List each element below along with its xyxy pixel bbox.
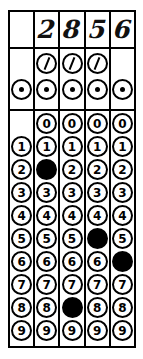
symbol-column-4 <box>86 49 111 109</box>
digit-bubble-5-2[interactable]: 2 <box>112 159 133 180</box>
digit-bubble-5-4[interactable]: 4 <box>112 205 133 226</box>
digit-bubble-3-9[interactable]: 9 <box>62 320 83 341</box>
fraction-bar-bubble-3[interactable] <box>62 53 83 74</box>
digit-bubble-4-6[interactable]: 6 <box>87 251 108 272</box>
digit-bubble-5-9[interactable]: 9 <box>112 320 133 341</box>
symbol-column-1 <box>10 49 35 109</box>
answer-digit-2: 2 <box>37 17 56 42</box>
answer-digit-3: 8 <box>62 17 81 42</box>
digit-bubble-4-8[interactable]: 8 <box>87 297 108 318</box>
digit-bubble-3-2[interactable]: 2 <box>62 159 83 180</box>
decimal-point-bubble-3[interactable] <box>62 79 83 100</box>
digit-bubble-3-5[interactable]: 5 <box>62 228 83 249</box>
fraction-bar-placeholder-1 <box>11 53 32 74</box>
answer-cell-5[interactable]: 6 <box>111 12 134 47</box>
symbol-column-5 <box>111 49 134 109</box>
digit-bubble-2-8[interactable]: 8 <box>36 297 57 318</box>
digit-bubble-2-7[interactable]: 7 <box>36 274 57 295</box>
digit-bubble-4-5[interactable]: 5 <box>87 228 108 249</box>
digit-bubble-1-7[interactable]: 7 <box>11 274 32 295</box>
digit-bubble-2-5[interactable]: 5 <box>36 228 57 249</box>
digit-column-1: 123456789 <box>10 111 35 346</box>
digit-bubble-1-1[interactable]: 1 <box>11 136 32 157</box>
digit-bubble-3-1[interactable]: 1 <box>62 136 83 157</box>
digit-bubble-1-3[interactable]: 3 <box>11 182 32 203</box>
digit-bubble-5-1[interactable]: 1 <box>112 136 133 157</box>
decimal-point-bubble-2[interactable] <box>36 79 57 100</box>
answer-cell-1[interactable] <box>10 12 35 47</box>
digit-bubble-3-0[interactable]: 0 <box>62 113 83 134</box>
digit-bubble-3-4[interactable]: 4 <box>62 205 83 226</box>
symbol-bubble-section <box>10 49 134 111</box>
digit-bubble-5-6[interactable]: 6 <box>112 251 133 272</box>
digit-bubble-5-7[interactable]: 7 <box>112 274 133 295</box>
digit-bubble-section: 1234567890123456789012345678901234567890… <box>10 111 134 346</box>
digit-bubble-4-0[interactable]: 0 <box>87 113 108 134</box>
digit-bubble-placeholder-zero-1 <box>11 113 32 134</box>
digit-bubble-4-9[interactable]: 9 <box>87 320 108 341</box>
handwritten-answer-row: 2 8 5 6 <box>10 12 134 49</box>
digit-bubble-2-4[interactable]: 4 <box>36 205 57 226</box>
digit-bubble-4-3[interactable]: 3 <box>87 182 108 203</box>
digit-column-4: 0123456789 <box>86 111 111 346</box>
symbol-column-3 <box>60 49 85 109</box>
answer-digit-4: 5 <box>88 17 107 42</box>
digit-bubble-1-4[interactable]: 4 <box>11 205 32 226</box>
digit-bubble-5-3[interactable]: 3 <box>112 182 133 203</box>
digit-bubble-2-0[interactable]: 0 <box>36 113 57 134</box>
digit-bubble-1-2[interactable]: 2 <box>11 159 32 180</box>
digit-column-2: 0123456789 <box>35 111 60 346</box>
digit-bubble-5-0[interactable]: 0 <box>112 113 133 134</box>
fraction-bar-bubble-2[interactable] <box>36 53 57 74</box>
digit-bubble-2-9[interactable]: 9 <box>36 320 57 341</box>
digit-bubble-1-5[interactable]: 5 <box>11 228 32 249</box>
digit-bubble-1-8[interactable]: 8 <box>11 297 32 318</box>
digit-bubble-4-2[interactable]: 2 <box>87 159 108 180</box>
answer-cell-3[interactable]: 8 <box>60 12 85 47</box>
digit-bubble-2-6[interactable]: 6 <box>36 251 57 272</box>
digit-bubble-2-3[interactable]: 3 <box>36 182 57 203</box>
fraction-bar-bubble-4[interactable] <box>87 53 108 74</box>
answer-cell-4[interactable]: 5 <box>86 12 111 47</box>
fraction-bar-placeholder-5 <box>112 53 133 74</box>
decimal-point-bubble-4[interactable] <box>87 79 108 100</box>
digit-column-3: 0123456789 <box>60 111 85 346</box>
digit-bubble-2-2[interactable]: 2 <box>36 159 57 180</box>
digit-bubble-1-6[interactable]: 6 <box>11 251 32 272</box>
digit-bubble-3-7[interactable]: 7 <box>62 274 83 295</box>
digit-bubble-3-3[interactable]: 3 <box>62 182 83 203</box>
decimal-point-bubble-5[interactable] <box>112 79 133 100</box>
digit-bubble-5-5[interactable]: 5 <box>112 228 133 249</box>
answer-cell-2[interactable]: 2 <box>35 12 60 47</box>
digit-bubble-5-8[interactable]: 8 <box>112 297 133 318</box>
digit-column-5: 0123456789 <box>111 111 134 346</box>
answer-digit-5: 6 <box>113 17 132 42</box>
digit-bubble-4-4[interactable]: 4 <box>87 205 108 226</box>
digit-bubble-2-1[interactable]: 1 <box>36 136 57 157</box>
digit-bubble-4-7[interactable]: 7 <box>87 274 108 295</box>
digit-bubble-3-6[interactable]: 6 <box>62 251 83 272</box>
digit-bubble-4-1[interactable]: 1 <box>87 136 108 157</box>
grid-in-answer-grid: 2 8 5 6 <box>8 10 136 348</box>
digit-bubble-3-8[interactable]: 8 <box>62 297 83 318</box>
symbol-column-2 <box>35 49 60 109</box>
decimal-point-bubble-1[interactable] <box>11 79 32 100</box>
digit-bubble-1-9[interactable]: 9 <box>11 320 32 341</box>
